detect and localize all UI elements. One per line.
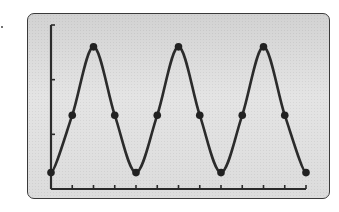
data-point-marker: [90, 43, 98, 51]
data-point-marker: [68, 111, 76, 119]
data-point-marker: [196, 111, 204, 119]
data-point-marker: [132, 169, 140, 177]
data-point-marker: [111, 111, 119, 119]
data-series: [47, 43, 310, 176]
data-point-marker: [302, 169, 310, 177]
chart-figure: [0, 0, 339, 212]
data-point-marker: [153, 111, 161, 119]
data-point-marker: [281, 111, 289, 119]
data-point-marker: [260, 43, 268, 51]
data-point-marker: [238, 111, 246, 119]
wave-line: [51, 47, 306, 173]
data-point-marker: [217, 169, 225, 177]
data-point-marker: [175, 43, 183, 51]
chart-plot-area: [0, 0, 339, 212]
data-point-marker: [47, 169, 55, 177]
